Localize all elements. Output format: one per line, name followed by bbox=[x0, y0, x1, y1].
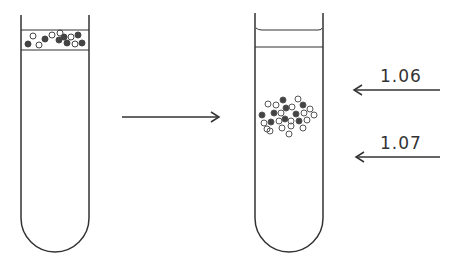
density-label-2: 1.07 bbox=[380, 133, 422, 153]
density-arrow-1 bbox=[354, 85, 440, 95]
left-particle-band bbox=[25, 30, 85, 48]
left-test-tube bbox=[21, 15, 89, 252]
density-arrow-2 bbox=[356, 152, 440, 162]
density-label-1: 1.06 bbox=[380, 66, 422, 86]
right-particle-cluster bbox=[259, 96, 317, 137]
right-test-tube bbox=[255, 13, 323, 252]
transition-arrow bbox=[122, 112, 219, 122]
